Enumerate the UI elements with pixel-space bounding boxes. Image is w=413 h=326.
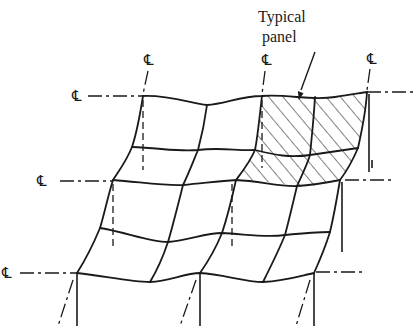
annotation-line-1: Typical [258, 8, 306, 26]
annotation-line-2: panel [262, 28, 297, 46]
cl-symbol-col-3: ℄ [261, 51, 272, 69]
deflected-slab-diagram: Typical panel ℄ ℄ ℄ ℄ ℄ ℄ [0, 0, 413, 326]
cl-symbol-col-1: ℄ [143, 51, 154, 69]
annotation-arrow [301, 52, 315, 90]
cl-symbol-left-bottom: ℄ [1, 264, 12, 282]
cl-symbol-col-5: ℄ [366, 50, 377, 68]
cl-symbol-left-top: ℄ [71, 87, 82, 105]
cl-symbol-left-mid: ℄ [36, 172, 47, 190]
